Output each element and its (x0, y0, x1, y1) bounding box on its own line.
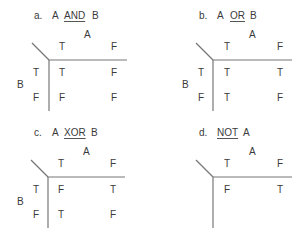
title-operand-right: A (243, 128, 250, 138)
title-operand-left: A (217, 11, 224, 21)
title-operator: AND (64, 11, 85, 21)
title-operand-left: A (52, 128, 59, 138)
row-variable-label: B (17, 197, 24, 207)
column-header-t: T (224, 42, 230, 52)
column-header-t: T (224, 159, 230, 169)
panel-letter: b. (199, 11, 207, 21)
cell: T (59, 68, 65, 78)
cell: F (110, 210, 116, 220)
panel-letter: c. (34, 128, 42, 138)
panel-letter: a. (34, 11, 42, 21)
row-header-t: T (33, 68, 39, 78)
cell: F (277, 93, 283, 103)
title-operator: NOT (217, 128, 238, 138)
title-operator: XOR (64, 128, 86, 138)
column-variable-label: A (249, 147, 256, 157)
title-operand-right: B (92, 11, 99, 21)
column-variable-label: A (249, 30, 256, 40)
row-header-f: F (33, 210, 39, 220)
row-header-t: T (198, 68, 204, 78)
row-variable-label: B (17, 80, 24, 90)
column-variable-label: A (84, 30, 91, 40)
row-header-f: F (198, 93, 204, 103)
cell: F (111, 93, 117, 103)
cell: F (224, 185, 230, 195)
cell: T (224, 93, 230, 103)
cell: F (58, 185, 64, 195)
column-header-t: T (58, 159, 64, 169)
truth-table-or: b. A OR B A T F B T F T T T F (155, 0, 307, 119)
row-header-t: T (33, 185, 39, 195)
column-header-f: F (277, 159, 283, 169)
truth-table-not: d. NOT A A T F F T (155, 118, 307, 237)
cell: T (58, 210, 64, 220)
panel-letter: d. (199, 128, 207, 138)
cell: T (110, 185, 116, 195)
cell: F (59, 93, 65, 103)
column-header-f: F (277, 42, 283, 52)
column-variable-label: A (83, 147, 90, 157)
column-header-t: T (59, 42, 65, 52)
row-header-f: F (33, 93, 39, 103)
title-operator: OR (230, 11, 245, 21)
column-header-f: F (111, 42, 117, 52)
cell: F (111, 68, 117, 78)
title-operand-right: B (91, 128, 98, 138)
truth-table-and: a. A AND B A T F B T F T F F F (0, 0, 153, 119)
column-header-f: F (110, 159, 116, 169)
title-operand-left: A (52, 11, 59, 21)
cell: T (277, 68, 283, 78)
cell: T (224, 68, 230, 78)
cell: T (277, 185, 283, 195)
row-variable-label: B (182, 80, 189, 90)
truth-table-xor: c. A XOR B A T F B T F F T T F (0, 118, 153, 237)
title-operand-right: B (250, 11, 257, 21)
